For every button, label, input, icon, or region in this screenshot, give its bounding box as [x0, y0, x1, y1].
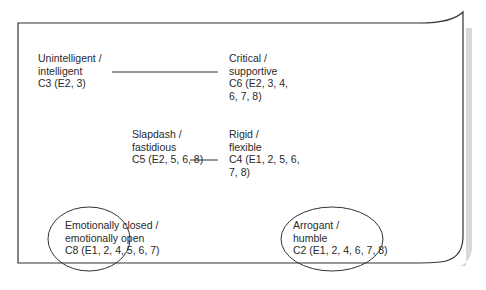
node-label: humble — [293, 232, 388, 245]
node-label: supportive — [229, 65, 288, 78]
node-label: fastidious — [132, 141, 203, 154]
node-code: C5 (E2, 5, 6, 8) — [132, 153, 203, 166]
node-label: Arrogant / — [293, 219, 388, 232]
node-c3: Unintelligent / intelligent C3 (E2, 3) — [38, 52, 102, 90]
node-code: C8 (E1, 2, 4, 5, 6, 7) — [65, 244, 160, 257]
node-c4: Rigid / flexible C4 (E1, 2, 5, 6, 7, 8) — [229, 128, 300, 178]
node-label: emotionally open — [65, 232, 160, 245]
node-code: C3 (E2, 3) — [38, 77, 102, 90]
node-code: C4 (E1, 2, 5, 6, — [229, 153, 300, 166]
node-code: C2 (E1, 2, 4, 6, 7, 8) — [293, 244, 388, 257]
node-label: Rigid / — [229, 128, 300, 141]
node-label: Unintelligent / — [38, 52, 102, 65]
node-label: Slapdash / — [132, 128, 203, 141]
node-c6: Critical / supportive C6 (E2, 3, 4, 6, 7… — [229, 52, 288, 102]
node-label: flexible — [229, 141, 300, 154]
node-c8: Emotionally closed / emotionally open C8… — [65, 219, 160, 257]
node-c2: Arrogant / humble C2 (E1, 2, 4, 6, 7, 8) — [293, 219, 388, 257]
node-label: Critical / — [229, 52, 288, 65]
node-code: C6 (E2, 3, 4, — [229, 77, 288, 90]
node-code: 6, 7, 8) — [229, 90, 288, 103]
node-label: Emotionally closed / — [65, 219, 160, 232]
node-code: 7, 8) — [229, 166, 300, 179]
node-c5: Slapdash / fastidious C5 (E2, 5, 6, 8) — [132, 128, 203, 166]
node-label: intelligent — [38, 65, 102, 78]
